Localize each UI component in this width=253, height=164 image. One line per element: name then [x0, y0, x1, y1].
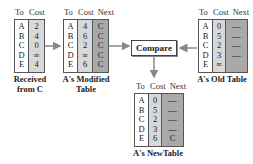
to-column: A B C D E: [135, 94, 149, 146]
old-header: To Cost Next: [199, 7, 249, 17]
new-caption: A's NewTable: [128, 148, 188, 158]
modified-caption: A's Modified Table: [58, 74, 114, 94]
caption-line: Received: [6, 74, 54, 84]
header-cost: Cost: [150, 81, 166, 91]
modified-table: A B C D E 4 6 2 ∞ 6 C C C C C: [63, 19, 109, 73]
to-column: A B C D E: [15, 20, 29, 72]
header-next: Next: [98, 7, 115, 17]
caption-line: A's Modified: [58, 74, 114, 84]
cell: E: [19, 60, 24, 70]
modified-header: To Cost Next: [64, 7, 114, 17]
received-header: To Cost: [15, 7, 45, 17]
next-column: — — — — C: [162, 94, 183, 146]
cell: ∞: [216, 60, 222, 70]
cost-column: 0 5 2 3 ∞: [213, 20, 226, 72]
header-cost: Cost: [78, 7, 94, 17]
header-to: To: [15, 7, 24, 17]
cell: C: [170, 134, 176, 144]
header-next: Next: [233, 7, 250, 17]
cell: —: [232, 51, 241, 61]
header-next: Next: [170, 81, 187, 91]
next-column: C C C C C: [93, 20, 108, 72]
cell: E: [68, 60, 73, 70]
header-to: To: [136, 81, 145, 91]
cost-column: 0 5 2 3 6: [149, 94, 162, 146]
received-from-c-table: A B C D E 2 4 0 ∞ 4: [14, 19, 45, 73]
cost-column: 2 4 0 ∞ 4: [29, 20, 44, 72]
header-to: To: [199, 7, 208, 17]
to-column: A B C D E: [64, 20, 78, 72]
next-column: — — — —: [226, 20, 247, 72]
old-table: A B C D E 0 5 2 3 ∞ — — — —: [198, 19, 248, 73]
cell: C: [98, 60, 104, 70]
cell: 6: [153, 134, 157, 144]
cell: 4: [34, 60, 38, 70]
to-column: A B C D E: [199, 20, 213, 72]
header-cost: Cost: [213, 7, 229, 17]
new-header: To Cost Next: [136, 81, 186, 91]
caption-line: Table: [58, 84, 114, 94]
compare-box: Compare: [131, 40, 177, 56]
cell: E: [139, 134, 144, 144]
cell: E: [203, 60, 208, 70]
old-caption: A's Old Table: [192, 74, 252, 84]
header-to: To: [64, 7, 73, 17]
cell: 6: [83, 60, 87, 70]
received-caption: Received from C: [6, 74, 54, 94]
cost-column: 4 6 2 ∞ 6: [78, 20, 93, 72]
header-cost: Cost: [29, 7, 45, 17]
caption-line: from C: [6, 84, 54, 94]
new-table: A B C D E 0 5 2 3 6 — — — — C: [134, 93, 184, 147]
